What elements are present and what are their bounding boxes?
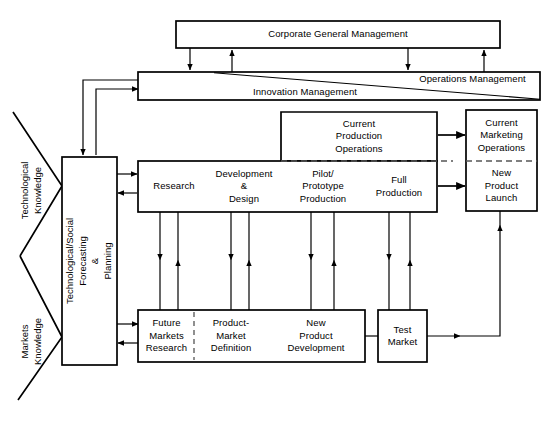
forecasting-planning-text: Technological/Social Forecasting & Plann…	[65, 218, 115, 304]
forecasting-research-arrows	[117, 174, 137, 193]
markets-knowledge-text: Markets Knowledge	[19, 317, 44, 364]
management-band-box	[138, 72, 540, 100]
pipeline-vertical-arrow-pairs	[160, 212, 410, 310]
test-market-to-launch-path	[427, 211, 500, 336]
forecasting-planning-label: Technological/Social Forecasting & Plann…	[62, 157, 117, 365]
test-market-box	[378, 310, 427, 362]
technological-knowledge-label: Technological Knowledge	[8, 140, 56, 240]
corporate-general-management-box	[176, 21, 500, 48]
innovation-management-diagram: Corporate General Management Operations …	[0, 0, 553, 423]
forecasting-markets-arrows	[117, 324, 138, 343]
technological-knowledge-text: Technological Knowledge	[20, 161, 45, 219]
current-production-operations-box	[281, 112, 437, 161]
cgm-to-management-arrows	[190, 48, 484, 72]
management-to-forecasting-feedback	[83, 80, 138, 155]
markets-knowledge-label: Markets Knowledge	[8, 295, 56, 387]
rd-pipeline-row-box	[138, 161, 437, 212]
market-pipeline-row-box	[138, 310, 365, 362]
